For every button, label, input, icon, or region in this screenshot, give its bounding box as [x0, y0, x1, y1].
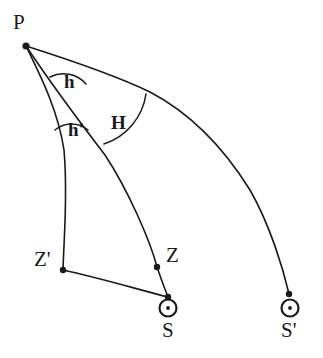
diagram-canvas — [0, 0, 323, 358]
point-marker-Z — [154, 264, 160, 270]
label-point-Sprime: S' — [281, 320, 296, 341]
arc-zprime-to-s — [63, 270, 168, 297]
point-marker-Zprime — [60, 267, 66, 273]
label-angle-h-prime: h' — [68, 120, 84, 139]
label-angle-H: H — [111, 113, 126, 132]
arc-p-to-zprime — [26, 46, 66, 270]
sun-symbol-Sprime — [282, 300, 299, 317]
label-point-S: S — [162, 320, 174, 341]
label-point-Z: Z — [166, 245, 179, 266]
label-angle-h: h — [64, 72, 75, 91]
label-point-Zprime: Z' — [34, 249, 51, 270]
point-marker-Sprime — [286, 291, 292, 297]
sun-symbol-S — [160, 300, 177, 317]
astronomy-diagram: P Z' Z S S' h h' H — [0, 0, 323, 358]
label-point-P: P — [13, 12, 25, 33]
point-marker-P — [22, 42, 29, 49]
